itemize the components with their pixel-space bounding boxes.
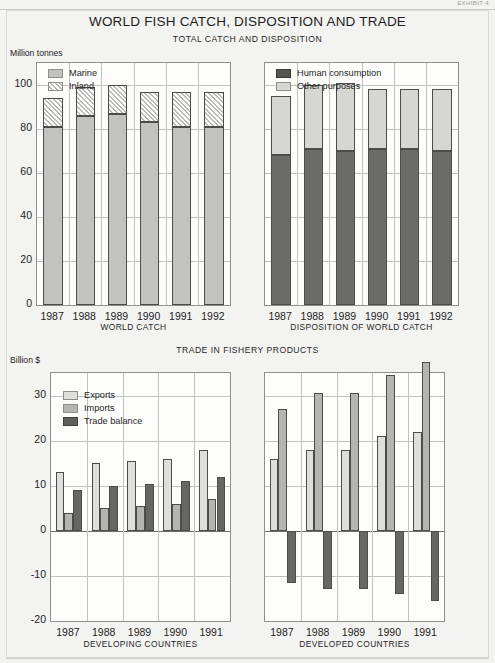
legend-swatch-imports <box>63 404 78 413</box>
bar-group <box>199 373 226 621</box>
bar-inland-1990 <box>140 92 159 123</box>
bar-group <box>377 373 404 621</box>
bar-exports-1990 <box>163 459 172 531</box>
bar-imports-1990 <box>386 375 395 531</box>
bar-other-purposes-1988 <box>304 85 323 149</box>
legend-label-exports: Exports <box>84 390 115 400</box>
y-axis-unit-bottom: Billion $ <box>10 355 40 365</box>
bar-other-purposes-1990 <box>368 89 387 148</box>
bar-imports-1988 <box>314 393 323 531</box>
bar-group <box>271 63 290 305</box>
bar-trade-balance-1989 <box>145 484 154 531</box>
x-tick-label: 1988 <box>296 310 328 322</box>
legend-swatch-other-purposes <box>276 82 291 91</box>
category-separator <box>337 373 338 621</box>
bar-imports-1990 <box>172 504 181 531</box>
bar-imports-1991 <box>208 499 217 531</box>
legend-swatch-trade-balance <box>63 417 78 426</box>
x-tick-label: 1990 <box>157 626 193 638</box>
legend-label-inland: Inland <box>69 81 94 91</box>
bar-exports-1989 <box>127 461 136 531</box>
bar-marine-1989 <box>108 114 127 305</box>
x-tick-label: 1988 <box>68 310 100 322</box>
bar-group <box>304 63 323 305</box>
bar-imports-1987 <box>64 513 73 531</box>
bar-group <box>336 63 355 305</box>
x-tick-label: 1991 <box>393 310 425 322</box>
x-tick-label: 1987 <box>264 626 300 638</box>
y-tick-label: -20 <box>12 613 46 625</box>
panel-label-world-catch: WORLD CATCH <box>36 322 231 332</box>
bar-trade-balance-1991 <box>217 477 226 531</box>
panel-label-developing-countries: DEVELOPING COUNTRIES <box>50 639 231 649</box>
x-tick-label: 1991 <box>165 310 197 322</box>
category-separator <box>329 63 330 305</box>
bar-other-purposes-1992 <box>432 89 451 151</box>
y-tick-label: 10 <box>12 478 46 490</box>
x-tick-label: 1991 <box>193 626 229 638</box>
bar-exports-1991 <box>413 432 422 531</box>
x-tick-label: 1989 <box>328 310 360 322</box>
legend-swatch-exports <box>63 391 78 400</box>
legend-item-exports: Exports <box>63 390 142 400</box>
category-separator <box>408 373 409 621</box>
legend-label-trade-balance: Trade balance <box>84 416 142 426</box>
legend-trade: Exports Imports Trade balance <box>63 390 142 429</box>
y-tick-label: 60 <box>0 165 32 177</box>
x-tick-label: 1992 <box>197 310 229 322</box>
x-tick-label: 1987 <box>264 310 296 322</box>
y-axis-unit-top: Million tonnes <box>10 48 63 58</box>
y-tick-label: 0 <box>0 297 32 309</box>
category-separator <box>372 373 373 621</box>
bar-group <box>400 63 419 305</box>
bar-inland-1989 <box>108 85 127 114</box>
bar-marine-1991 <box>172 127 191 305</box>
category-separator <box>158 373 159 621</box>
bar-group <box>341 373 368 621</box>
y-tick-label: 100 <box>0 77 32 89</box>
x-tick-label: 1989 <box>336 626 372 638</box>
bar-trade-balance-1991 <box>431 531 440 601</box>
x-tick-label: 1987 <box>36 310 68 322</box>
category-separator <box>194 373 195 621</box>
category-separator <box>134 63 135 305</box>
chart-world-catch <box>36 62 231 306</box>
x-tick-label: 1992 <box>425 310 457 322</box>
legend-item-imports: Imports <box>63 403 142 413</box>
category-separator <box>297 63 298 305</box>
bar-group <box>368 63 387 305</box>
bar-other-purposes-1991 <box>400 89 419 148</box>
x-tick-label: 1988 <box>86 626 122 638</box>
x-tick-label: 1990 <box>371 626 407 638</box>
bar-other-purposes-1987 <box>271 96 290 155</box>
bar-exports-1987 <box>56 472 65 531</box>
bar-group <box>76 63 95 305</box>
legend-item-marine: Marine <box>48 68 97 78</box>
y-tick-label: 0 <box>12 523 46 535</box>
bar-human-consumption-1988 <box>304 149 323 305</box>
legend-swatch-human-consumption <box>276 69 291 78</box>
x-tick-label: 1989 <box>122 626 158 638</box>
exhibit-page: EXHIBIT 4 WORLD FISH CATCH, DISPOSITION … <box>0 0 495 663</box>
bar-trade-balance-1988 <box>109 486 118 531</box>
y-tick-label: -10 <box>12 568 46 580</box>
bar-group <box>306 373 333 621</box>
section-title-bottom: TRADE IN FISHERY PRODUCTS <box>0 345 495 355</box>
bar-imports-1988 <box>100 508 109 531</box>
legend-world-catch: Marine Inland <box>48 68 97 94</box>
legend-swatch-inland <box>48 82 63 91</box>
category-separator <box>69 63 70 305</box>
legend-label-marine: Marine <box>69 68 97 78</box>
exhibit-tag: EXHIBIT 4 <box>457 0 489 6</box>
bar-exports-1989 <box>341 450 350 531</box>
bar-human-consumption-1990 <box>368 149 387 305</box>
y-tick-label: 20 <box>12 433 46 445</box>
bar-human-consumption-1989 <box>336 151 355 305</box>
bar-group <box>140 63 159 305</box>
category-separator <box>101 63 102 305</box>
bar-imports-1987 <box>278 409 287 531</box>
legend-item-other-purposes: Other purposes <box>276 81 381 91</box>
bar-imports-1989 <box>350 393 359 531</box>
legend-label-imports: Imports <box>84 403 115 413</box>
bar-trade-balance-1987 <box>287 531 296 583</box>
